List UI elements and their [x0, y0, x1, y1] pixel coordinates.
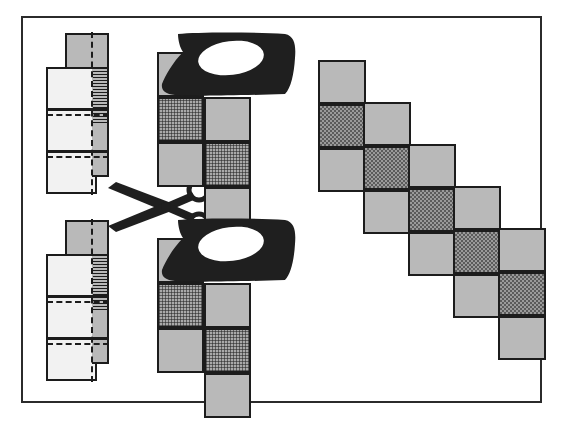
cascade-c3-cell-2 [408, 188, 456, 232]
cascade-c1-cell-2 [318, 104, 366, 148]
cascade-c5-cell-2 [498, 272, 546, 316]
cascade-c2-cell-2 [363, 146, 411, 190]
cascade-c2-cell-3 [363, 190, 411, 234]
cascade-c1-cell-1 [318, 60, 366, 104]
cascade-c3-cell-3 [408, 232, 456, 276]
cascade-c4-cell-1 [453, 186, 501, 230]
figure-canvas [0, 0, 562, 422]
right-cascade [23, 18, 540, 401]
cascade-c3-cell-1 [408, 144, 456, 188]
cascade-c4-cell-2 [453, 230, 501, 274]
cascade-c4-cell-3 [453, 274, 501, 318]
figure-frame [21, 16, 542, 403]
cascade-c1-cell-3 [318, 148, 366, 192]
cascade-c5-cell-1 [498, 228, 546, 272]
cascade-c2-cell-1 [363, 102, 411, 146]
cascade-c5-cell-3 [498, 316, 546, 360]
